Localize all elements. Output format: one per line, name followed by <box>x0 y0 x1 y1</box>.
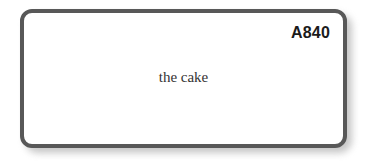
screenshot-canvas: A840 the cake <box>0 0 366 166</box>
card-code-label: A840 <box>291 25 330 41</box>
labeled-card: A840 the cake <box>20 9 347 148</box>
card-body-text: the cake <box>24 70 343 85</box>
